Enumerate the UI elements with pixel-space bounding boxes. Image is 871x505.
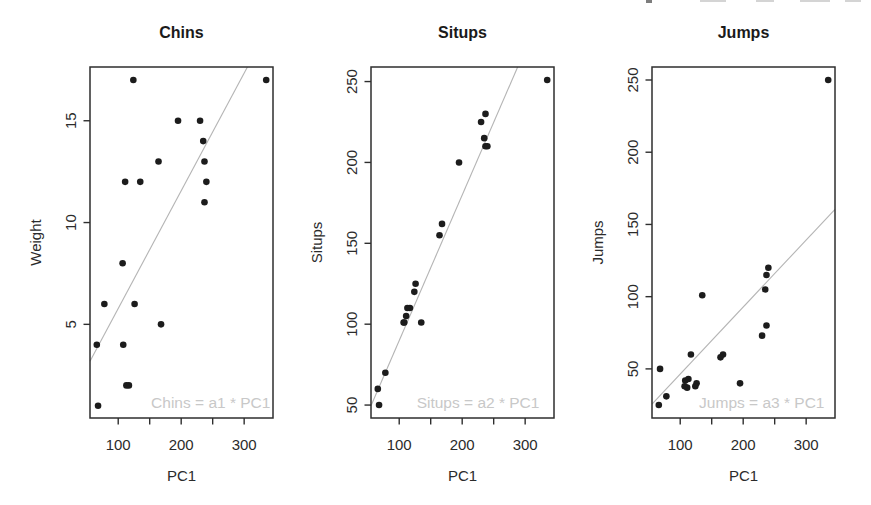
data-point xyxy=(197,117,204,124)
cropped-glyph-fragment xyxy=(700,0,726,2)
data-point xyxy=(123,382,130,389)
cropped-glyph-fragment xyxy=(800,0,830,2)
chart-title: Chins xyxy=(159,24,204,41)
data-point xyxy=(411,289,418,296)
data-point xyxy=(481,135,488,142)
plot-box xyxy=(90,67,273,418)
data-point xyxy=(436,232,443,239)
y-tick-label: 50 xyxy=(624,361,641,378)
data-point xyxy=(765,264,772,271)
chart-panel-chins: ChinsChins = a1 * PC110020030051015PC1We… xyxy=(27,24,273,484)
x-tick-label: 100 xyxy=(106,436,131,453)
cropped-text-remnant xyxy=(0,0,871,4)
data-point xyxy=(656,402,663,409)
y-axis-label: Weight xyxy=(27,218,44,265)
x-tick-label: 100 xyxy=(668,436,693,453)
cropped-glyph-fragment xyxy=(756,0,774,2)
data-point xyxy=(688,351,695,358)
data-point xyxy=(122,179,129,186)
data-point xyxy=(137,179,144,186)
y-tick-label: 10 xyxy=(62,214,79,231)
data-point xyxy=(737,380,744,387)
y-tick-label: 50 xyxy=(343,397,360,414)
x-axis-label: PC1 xyxy=(729,467,758,484)
data-point xyxy=(482,111,489,118)
data-point xyxy=(263,77,270,84)
data-point xyxy=(158,321,165,328)
data-point xyxy=(131,301,138,308)
data-point xyxy=(717,354,724,361)
y-tick-label: 100 xyxy=(624,284,641,309)
y-tick-label: 200 xyxy=(343,150,360,175)
chart-panel-jumps: JumpsJumps = a3 * PC11002003005010015020… xyxy=(589,24,835,484)
data-point xyxy=(699,292,706,299)
data-point xyxy=(544,77,551,84)
fit-line xyxy=(652,209,835,404)
y-tick-label: 5 xyxy=(62,320,79,328)
data-point xyxy=(376,402,383,409)
data-point xyxy=(400,319,407,326)
scatter-figure: ChinsChins = a1 * PC110020030051015PC1We… xyxy=(0,0,871,505)
data-point xyxy=(155,158,162,165)
x-tick-label: 200 xyxy=(450,436,475,453)
fit-equation-annotation: Chins = a1 * PC1 xyxy=(151,394,270,411)
y-tick-label: 250 xyxy=(343,69,360,94)
y-tick-label: 200 xyxy=(624,140,641,165)
data-point xyxy=(763,272,770,279)
data-point xyxy=(439,221,446,228)
chart-panel-situps: SitupsSitups = a2 * PC110020030050100150… xyxy=(308,24,554,484)
y-tick-label: 15 xyxy=(62,112,79,129)
chart-title: Situps xyxy=(438,24,487,41)
cropped-glyph-fragment xyxy=(646,0,652,3)
data-point xyxy=(657,366,664,373)
data-point xyxy=(120,341,127,348)
data-point xyxy=(412,280,419,287)
data-point xyxy=(175,117,182,124)
x-tick-label: 300 xyxy=(232,436,257,453)
fit-line xyxy=(371,67,518,406)
fit-equation-annotation: Jumps = a3 * PC1 xyxy=(699,394,824,411)
data-point xyxy=(94,341,101,348)
data-point xyxy=(201,199,208,206)
plot-box xyxy=(371,67,554,418)
y-tick-label: 150 xyxy=(343,231,360,256)
y-tick-label: 150 xyxy=(624,212,641,237)
data-point xyxy=(825,77,832,84)
data-point xyxy=(403,313,410,320)
three-panel-scatter-svg: ChinsChins = a1 * PC110020030051015PC1We… xyxy=(0,0,871,505)
x-tick-label: 200 xyxy=(731,436,756,453)
x-tick-label: 300 xyxy=(513,436,538,453)
data-point xyxy=(201,158,208,165)
data-point xyxy=(101,301,108,308)
data-point xyxy=(692,383,699,390)
chart-title: Jumps xyxy=(718,24,770,41)
y-tick-label: 100 xyxy=(343,312,360,337)
y-axis-label: Situps xyxy=(308,222,325,264)
data-point xyxy=(759,332,766,339)
data-point xyxy=(685,376,692,383)
y-tick-label: 250 xyxy=(624,67,641,92)
fit-line xyxy=(90,67,247,361)
data-point xyxy=(763,322,770,329)
x-tick-label: 200 xyxy=(169,436,194,453)
data-point xyxy=(203,179,210,186)
data-point xyxy=(382,369,389,376)
data-point xyxy=(456,159,463,166)
fit-equation-annotation: Situps = a2 * PC1 xyxy=(417,394,540,411)
x-tick-label: 100 xyxy=(387,436,412,453)
data-point xyxy=(681,383,688,390)
data-point xyxy=(418,319,425,326)
data-point xyxy=(663,393,670,400)
data-point xyxy=(200,138,207,145)
y-axis-label: Jumps xyxy=(589,220,606,264)
data-point xyxy=(762,286,769,293)
plot-box xyxy=(652,67,835,418)
data-point xyxy=(95,402,102,409)
data-point xyxy=(404,305,411,312)
data-point xyxy=(119,260,126,267)
x-axis-label: PC1 xyxy=(167,467,196,484)
data-point xyxy=(375,386,382,393)
data-point xyxy=(478,119,485,126)
data-point xyxy=(130,77,137,84)
data-point xyxy=(484,143,491,150)
